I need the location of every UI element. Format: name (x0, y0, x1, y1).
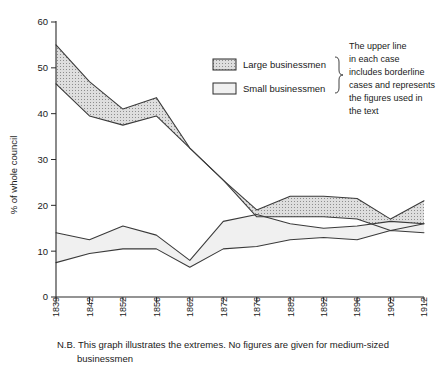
x-tick-label: 1839 (51, 297, 61, 317)
x-tick-label: 1892 (319, 297, 329, 317)
x-tick-label: 1856 (152, 297, 162, 317)
note-line-3: includes borderline (349, 67, 425, 77)
caption-line-2: businessmen (77, 353, 133, 364)
x-tick-label: 1872 (219, 297, 229, 317)
x-tick-label: 1912 (419, 297, 429, 317)
note-line-1: The upper line (349, 41, 407, 51)
caption-line-1: N.B. This graph illustrates the extremes… (57, 339, 389, 350)
y-tick-label: 40 (37, 108, 48, 119)
y-tick-label: 10 (37, 246, 48, 257)
legend-label-large: Large businessmen (243, 59, 326, 70)
plain-swatch (213, 83, 236, 94)
x-tick-label: 1862 (185, 297, 195, 317)
business-composition-chart: 0102030405060 18391842185218561862187218… (0, 0, 436, 372)
x-tick-label: 1852 (118, 297, 128, 317)
legend-label-small: Small businessmen (243, 83, 325, 94)
y-axis-label: % of whole council (8, 136, 19, 215)
chart-caption: N.B. This graph illustrates the extremes… (57, 339, 389, 364)
x-tick-group: 1839184218521856186218721876188218921896… (51, 297, 429, 317)
note-line-5: the figures used in (349, 93, 423, 103)
hatched-swatch (213, 59, 236, 70)
x-tick-label: 1876 (252, 297, 262, 317)
y-tick-label: 60 (37, 16, 48, 27)
chart-container: 0102030405060 18391842185218561862187218… (0, 0, 436, 372)
legend-brace (335, 57, 343, 93)
note-line-2: in each case (349, 54, 400, 64)
explanatory-note: The upper line in each case includes bor… (349, 41, 436, 116)
chart-legend: Large businessmen Small businessmen (213, 57, 343, 94)
x-tick-label: 1896 (352, 297, 362, 317)
note-line-4: cases and represents (349, 80, 436, 90)
note-line-6: the text (349, 106, 379, 116)
y-tick-label: 50 (37, 62, 48, 73)
y-tick-group: 0102030405060 (37, 16, 56, 302)
y-tick-label: 20 (37, 200, 48, 211)
y-tick-label: 0 (43, 291, 48, 302)
y-tick-label: 30 (37, 154, 48, 165)
x-tick-label: 1902 (386, 297, 396, 317)
plot-areas (56, 45, 424, 267)
x-tick-label: 1842 (85, 297, 95, 317)
x-tick-label: 1882 (286, 297, 296, 317)
